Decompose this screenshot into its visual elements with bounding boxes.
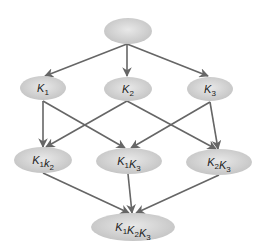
node-k3: K3 <box>187 77 233 101</box>
node-k1: K1 <box>20 76 66 100</box>
node-k2: K2 <box>104 77 152 101</box>
node-k1k2: K1k2 <box>14 147 72 173</box>
nodes-group: K1K2K3K1k2K1K3K2K3K1K2K3 <box>14 18 252 242</box>
lattice-diagram: K1K2K3K1k2K1K3K2K3K1K2K3 <box>0 0 262 250</box>
edge-root-to-k1 <box>45 44 127 76</box>
edge-k2-to-k1k2 <box>46 101 127 147</box>
node-k1k3: K1K3 <box>96 148 162 174</box>
node-k2k3: K2K3 <box>186 149 252 175</box>
edge-k1k3-to-k1k2k3 <box>128 174 132 213</box>
node-k1k2k3: K1K2K3 <box>91 213 175 242</box>
edge-k1k2-to-k1k2k3 <box>43 173 129 213</box>
edges-group <box>43 44 219 213</box>
edge-root-to-k3 <box>127 44 208 76</box>
edge-k3-to-k2k3 <box>210 102 218 149</box>
edge-k2k3-to-k1k2k3 <box>136 175 219 213</box>
node-root <box>104 18 152 44</box>
node-ellipse <box>104 18 152 44</box>
